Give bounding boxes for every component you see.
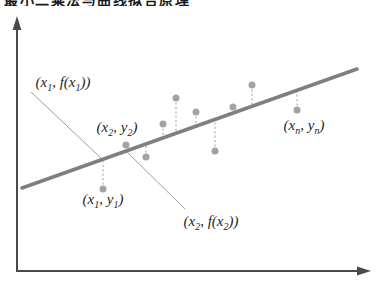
y-axis-arrowhead bbox=[13, 16, 22, 30]
diagram-svg bbox=[0, 0, 382, 285]
data-point-6 bbox=[193, 109, 200, 116]
data-point-9 bbox=[249, 82, 256, 89]
x-axis-arrowhead bbox=[357, 267, 371, 276]
data-point-3 bbox=[143, 154, 150, 161]
data-point-4 bbox=[160, 121, 167, 128]
data-point-7 bbox=[212, 148, 219, 155]
data-point-2 bbox=[123, 142, 130, 149]
leader-line-2 bbox=[125, 150, 185, 209]
fit-line bbox=[22, 69, 357, 188]
data-point-10 bbox=[294, 107, 301, 114]
data-point-1 bbox=[100, 186, 107, 193]
data-point-8 bbox=[230, 104, 237, 111]
leader-line-1 bbox=[31, 92, 103, 160]
least-squares-figure: 最小二乘法与曲线拟合原理 (x1, f(x1))(x2, y2)(x1, y1)… bbox=[0, 0, 382, 285]
data-point-5 bbox=[173, 95, 180, 102]
